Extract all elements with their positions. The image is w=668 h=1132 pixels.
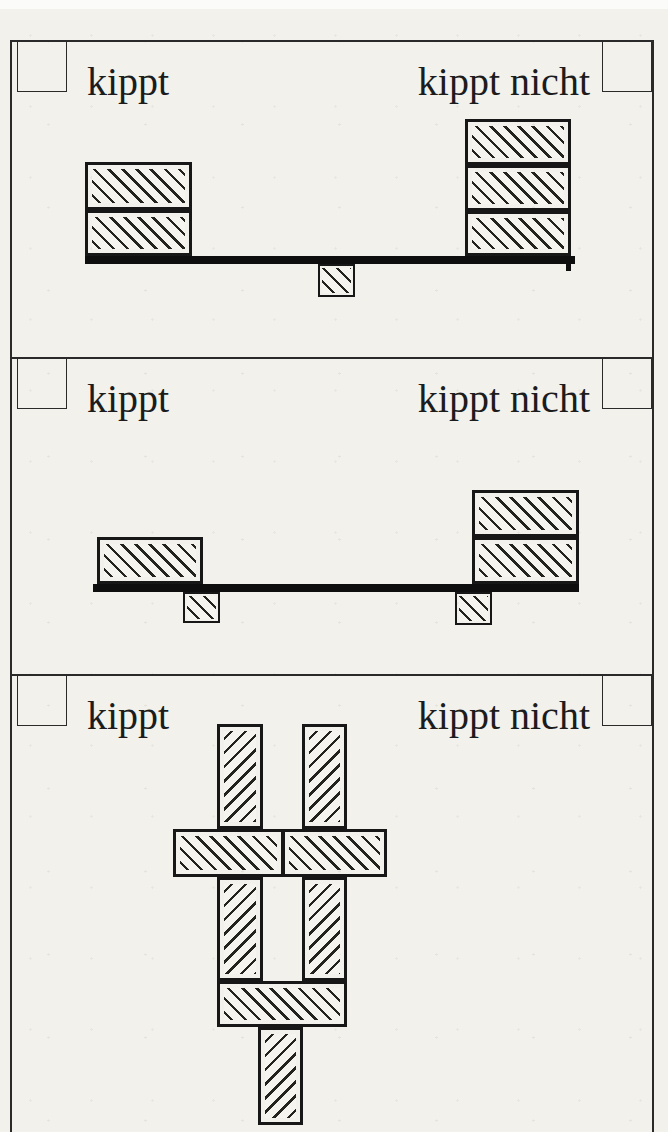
hatched-block	[465, 211, 571, 256]
hatched-block	[217, 724, 263, 829]
hatched-block	[85, 210, 192, 256]
hatched-block	[173, 829, 284, 877]
balance-beam	[93, 584, 579, 592]
hatched-block	[302, 724, 347, 829]
balance-beam	[85, 256, 575, 264]
pivot-block	[318, 264, 355, 297]
hatched-block	[302, 877, 347, 981]
pivot-block	[183, 592, 220, 623]
hatched-block	[217, 877, 263, 981]
pivot-block	[455, 592, 492, 625]
hatched-block	[472, 490, 579, 537]
worksheet-page: kippt kippt nicht kippt kippt nicht kipp…	[0, 0, 668, 1132]
beam-end-stub	[566, 256, 571, 271]
hatched-block	[85, 162, 192, 210]
hatched-block	[472, 537, 579, 584]
hatched-block	[258, 1027, 303, 1125]
hatched-block	[282, 829, 387, 877]
hatched-block	[465, 119, 571, 165]
hatched-block	[97, 537, 203, 584]
figure-layer	[0, 0, 668, 1132]
hatched-block	[217, 981, 347, 1027]
hatched-block	[465, 165, 571, 211]
